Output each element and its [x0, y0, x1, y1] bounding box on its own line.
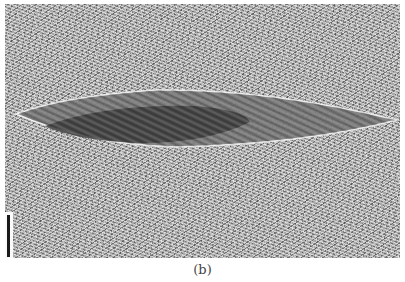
- panel-label: (b): [0, 262, 405, 277]
- micrograph-image: [5, 4, 400, 258]
- particle-shape: [5, 4, 400, 258]
- scale-bar: [7, 215, 10, 257]
